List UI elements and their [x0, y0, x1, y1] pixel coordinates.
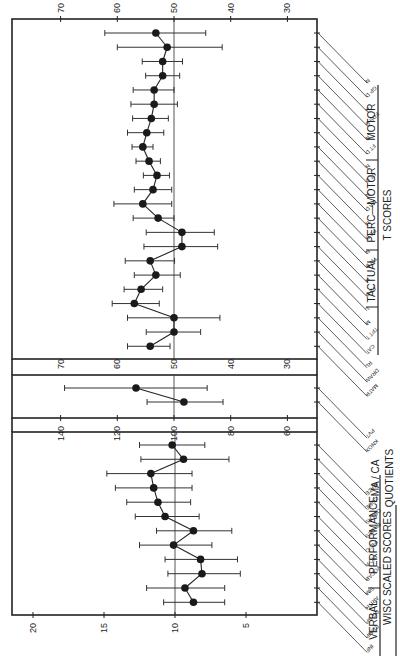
data-point-comp [147, 585, 320, 591]
data-point-ft-d [131, 101, 320, 107]
leader-line [318, 76, 367, 126]
leader-line [318, 289, 367, 339]
leader-line [318, 474, 367, 524]
score-dot [163, 43, 171, 51]
chart-panels: 7060504030NGP DNFOS DNFT DNST DNMA DNPS … [12, 3, 382, 654]
data-point-rl [128, 315, 320, 321]
group-label-t-scores: T SCORES [382, 189, 393, 240]
score-dot [148, 115, 156, 123]
leader-line [318, 218, 367, 268]
leader-line [318, 445, 367, 495]
data-point-tpt-t [124, 286, 320, 292]
panel-frame [12, 19, 317, 359]
score-dot [147, 470, 155, 478]
axis-tick-label: 140 [56, 426, 66, 441]
data-point-ps-d [134, 187, 320, 193]
score-dot [180, 398, 188, 406]
item-label: N [364, 248, 371, 255]
score-dot [170, 314, 178, 322]
score-dot [178, 229, 186, 237]
axis-tick-label: 60 [112, 3, 122, 13]
data-point-n [142, 58, 320, 64]
data-point-dg-sp [168, 571, 320, 577]
data-point-maze [140, 442, 321, 448]
group-label-ma-ca: MA / CA [370, 459, 381, 496]
data-point-n [133, 115, 320, 121]
leader-line [318, 247, 367, 297]
leader-line [318, 588, 367, 638]
score-dot [154, 214, 162, 222]
leader-line [318, 488, 367, 538]
leader-line [318, 204, 367, 254]
axis-tick-label: 120 [112, 426, 122, 441]
score-dot [159, 58, 167, 66]
data-point-arith [165, 556, 320, 562]
data-point-fos-d [146, 73, 320, 79]
panel-2: 2015105MAZECODEOBJ ASBL DESPIC CPIC AVOC… [12, 432, 382, 654]
score-dot [152, 271, 160, 279]
data-point-gp-d [117, 44, 320, 50]
group-label-wisc-scaled-scores: WISC SCALED SCORES [382, 511, 393, 625]
score-dot [154, 498, 162, 506]
data-point-n [132, 144, 320, 150]
score-dot [170, 328, 178, 336]
data-point-st-d [128, 130, 320, 136]
score-dot [178, 243, 186, 251]
item-label: N [364, 77, 371, 84]
leader-line [318, 459, 367, 509]
item-label: INF [364, 643, 375, 654]
leader-line [318, 332, 367, 382]
leader-line [318, 602, 367, 652]
score-dot [150, 484, 158, 492]
leader-line [318, 61, 367, 111]
axis-tick-label: 5 [241, 623, 251, 628]
leader-line [318, 304, 367, 354]
leader-line [318, 261, 367, 311]
score-dot [131, 300, 139, 308]
axis-tick-label: 40 [226, 3, 236, 13]
score-dot [181, 584, 189, 592]
axis-tick-label: 100 [169, 426, 179, 441]
axis-tick-label: 15 [99, 623, 109, 633]
axis-tick-label: 30 [282, 3, 292, 13]
data-point-n [143, 172, 320, 178]
item-label: M [364, 319, 372, 327]
score-dot [190, 527, 198, 535]
score-dot [139, 200, 147, 208]
svg-text:30: 30 [282, 359, 292, 369]
item-label: MATR [364, 383, 379, 398]
leader-line [318, 47, 367, 97]
svg-text:60: 60 [112, 359, 122, 369]
data-point-pvt [65, 385, 320, 391]
item-label: RL [364, 360, 373, 369]
score-dot [153, 172, 161, 180]
axis-tick-label: 80 [226, 426, 236, 436]
group-label-motor: MOTOR [366, 103, 377, 140]
leader-line [318, 318, 367, 368]
axis-tick-label: 60 [282, 426, 292, 436]
leader-line [318, 104, 367, 154]
axis-tick-label: 50 [169, 3, 179, 13]
score-dot [197, 556, 205, 564]
leader-line [318, 275, 367, 325]
leader-line [318, 33, 367, 83]
data-point-inf [164, 599, 320, 605]
leader-line [318, 161, 367, 211]
group-label-performance: PERFORMANCE [368, 496, 379, 574]
score-dot [146, 257, 154, 265]
leader-line [318, 118, 367, 168]
leader-line [318, 402, 367, 452]
data-point-fa-d [144, 244, 320, 250]
score-dot [132, 384, 140, 392]
score-dot [137, 286, 145, 294]
leader-line [318, 517, 367, 567]
group-label-verbal: VERBAL [368, 600, 379, 640]
score-dot [159, 72, 167, 80]
score-dot [150, 100, 158, 108]
axis-tick-label: 70 [56, 3, 66, 13]
data-point-matr [128, 343, 320, 349]
score-dot [152, 29, 160, 37]
data-point-n [146, 229, 320, 235]
item-label: PVT [364, 428, 376, 440]
svg-text:40: 40 [226, 359, 236, 369]
